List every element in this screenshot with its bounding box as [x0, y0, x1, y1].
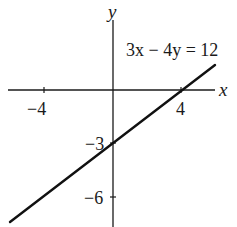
x-tick-label-4: 4	[176, 99, 185, 119]
equation-label: 3x − 4y = 12	[126, 40, 218, 60]
y-tick-label-neg6: −6	[84, 188, 103, 208]
coordinate-plane: y x −4 4 −3 −6 3x − 4y = 12	[0, 0, 237, 227]
y-axis-label: y	[106, 1, 117, 22]
x-tick-label-neg4: −4	[27, 99, 46, 119]
x-axis-label: x	[218, 79, 228, 100]
y-tick-label-neg3: −3	[85, 134, 104, 154]
